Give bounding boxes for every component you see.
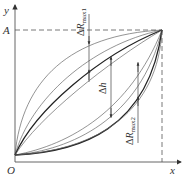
lower-curve-main <box>15 30 162 155</box>
lower-curve-outer <box>15 30 162 155</box>
x-axis-label: x <box>169 164 175 176</box>
lower-curve-1 <box>15 30 162 155</box>
upper-curve-main <box>15 30 162 155</box>
dh-label: Δh <box>97 83 108 94</box>
a-label: A <box>2 24 10 36</box>
upper-curve-1 <box>15 30 162 155</box>
dr-max1-label: ΔRmax1 <box>75 7 88 36</box>
upper-curve-2 <box>15 30 162 155</box>
y-axis-label: y <box>3 4 9 16</box>
upper-curve-outer <box>15 30 162 155</box>
origin-label: O <box>7 164 15 176</box>
dr-max2-label: ΔRmax2 <box>124 116 137 145</box>
lower-curve-2 <box>15 30 162 155</box>
diagram-canvas: ΔRmax1 Δh ΔRmax2 y A O x <box>0 0 185 176</box>
